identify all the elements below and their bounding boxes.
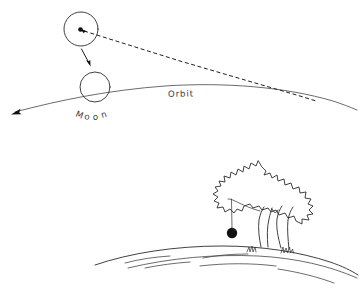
ground-texture-dash-1 bbox=[125, 256, 170, 263]
apple-body bbox=[227, 228, 237, 238]
tree-branch-apple-support bbox=[228, 199, 260, 211]
apple-group bbox=[227, 199, 237, 238]
orbit-label: Orbit bbox=[168, 88, 194, 99]
figure-root: Orbit M o o n bbox=[0, 0, 361, 295]
moon-label: M o o n bbox=[74, 108, 109, 122]
tree-trunk-left-limb-inner bbox=[267, 208, 272, 247]
fall-arrow-group bbox=[82, 49, 91, 67]
tree-crown-outline bbox=[213, 161, 313, 224]
moon-body-group bbox=[80, 72, 110, 102]
orbit-direction-arrowhead bbox=[11, 109, 22, 115]
upper-body-group bbox=[64, 12, 98, 46]
ground-texture-dash-5 bbox=[278, 269, 334, 283]
moon-label-letter-2: o bbox=[92, 112, 99, 122]
tree-group bbox=[213, 161, 313, 253]
labels-group: Orbit M o o n bbox=[74, 88, 194, 122]
moon-label-letter-3: n bbox=[100, 108, 109, 120]
tree-trunk-left-limb bbox=[259, 207, 264, 247]
diagram-canvas: Orbit M o o n bbox=[0, 0, 361, 295]
ground-hill-lower-edge bbox=[128, 256, 357, 279]
moon-circle bbox=[80, 72, 110, 102]
tree-trunk-right-limb-inner bbox=[288, 207, 293, 249]
ground-texture-dash-4 bbox=[200, 264, 276, 266]
apple-string bbox=[232, 199, 233, 228]
ground-group bbox=[95, 246, 358, 283]
moon-label-letter-1: o bbox=[84, 111, 92, 122]
fall-arrow-shaft bbox=[82, 49, 90, 63]
